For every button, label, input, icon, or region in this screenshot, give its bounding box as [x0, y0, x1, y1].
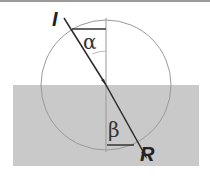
refraction-diagram: [0, 0, 210, 176]
arrow-icon: [101, 79, 106, 85]
label-refracted: R: [140, 143, 154, 166]
label-beta: β: [108, 118, 120, 142]
label-incident: I: [52, 8, 58, 31]
label-alpha: α: [83, 30, 97, 54]
